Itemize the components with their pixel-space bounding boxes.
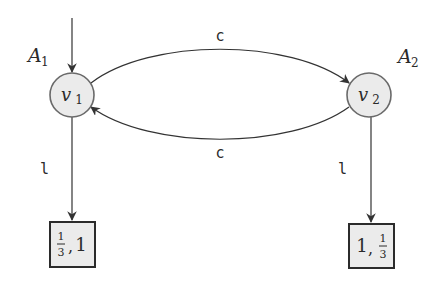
leaf-payoff-1: 1 3 , 1 (50, 222, 95, 267)
node-v1: v 1 (50, 73, 94, 117)
svg-text:2: 2 (411, 56, 419, 70)
leaf2-first: 1 (356, 235, 367, 256)
leaf1-second: 1 (75, 234, 86, 255)
node-v1-label: v (61, 84, 71, 105)
node-v1-subscript: 1 (75, 93, 83, 107)
node-v2-label: v (358, 84, 368, 105)
edge-v2-to-v1 (91, 107, 349, 139)
edge-label-l-right: l (338, 160, 347, 178)
svg-text:1: 1 (41, 55, 49, 69)
owner-label-a2: A 2 (396, 45, 419, 70)
game-graph-diagram: c c l l v 1 A 1 v 2 A 2 1 3 , 1 1 , 1 (0, 0, 443, 286)
leaf1-comma: , (68, 237, 73, 256)
edge-label-c-top: c (215, 27, 224, 45)
leaf2-denominator: 3 (380, 248, 387, 261)
edge-label-c-bottom: c (215, 144, 224, 162)
leaf2-numerator: 1 (380, 232, 387, 245)
node-v2: v 2 (347, 73, 391, 117)
edge-v1-to-v2 (91, 49, 349, 83)
leaf1-denominator: 3 (58, 246, 65, 259)
owner-label-a1: A 1 (26, 44, 49, 69)
leaf-payoff-2: 1 , 1 3 (349, 224, 394, 268)
svg-text:A: A (396, 45, 412, 67)
leaf1-numerator: 1 (58, 230, 65, 243)
svg-text:A: A (26, 44, 42, 66)
edge-label-l-left: l (40, 160, 49, 178)
node-v2-subscript: 2 (372, 93, 380, 107)
leaf2-comma: , (368, 239, 373, 258)
